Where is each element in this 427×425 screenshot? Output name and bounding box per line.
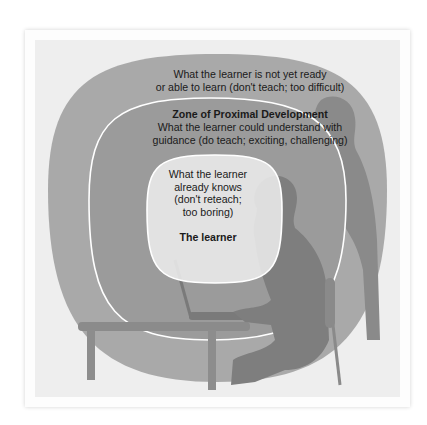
inner-zone-line-2: already knows <box>153 181 263 194</box>
desk-leg-left <box>87 330 95 380</box>
zones-illustration <box>35 40 400 397</box>
desk-leg-right <box>208 330 216 390</box>
inner-zone-description: What the learner already knows (don't re… <box>153 168 263 218</box>
inner-zone-line-4: too boring) <box>153 206 263 219</box>
zpd-description: What the learner could understand with g… <box>130 121 370 146</box>
outer-zone-description: What the learner is not yet ready or abl… <box>120 68 380 93</box>
outer-zone-line-1: What the learner is not yet ready <box>120 68 380 81</box>
inner-zone-line-3: (don't reteach; <box>153 193 263 206</box>
zpd-title: Zone of Proximal Development <box>130 108 370 121</box>
desk-top <box>78 322 250 331</box>
zpd-line-2: guidance (do teach; exciting, challengin… <box>130 134 370 147</box>
diagram-panel: What the learner is not yet ready or abl… <box>35 40 400 397</box>
inner-zone-line-1: What the learner <box>153 168 263 181</box>
learner-title: The learner <box>153 231 263 244</box>
chair-back <box>325 278 335 328</box>
zpd-line-1: What the learner could understand with <box>130 121 370 134</box>
outer-zone-line-2: or able to learn (don't teach; too diffi… <box>120 81 380 94</box>
